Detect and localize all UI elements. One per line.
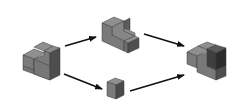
arrow-start-to-lower (64, 74, 102, 89)
arrow-start-to-upper (65, 37, 96, 46)
start-block (23, 42, 60, 80)
arrow-lower-to-result (130, 75, 184, 91)
arrow-upper-to-result (144, 34, 184, 46)
block-diagram (0, 0, 243, 112)
upper-path-block (102, 17, 139, 53)
result-block (187, 42, 226, 80)
lower-path-cube (107, 78, 124, 99)
